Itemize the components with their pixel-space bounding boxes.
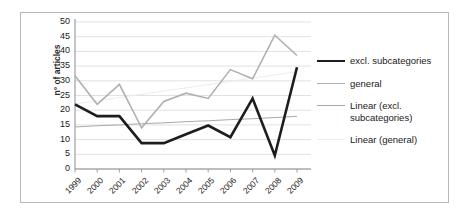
legend-swatch-icon (317, 60, 345, 62)
x-axis-tickmarks (75, 169, 297, 173)
legend-item-label: Linear (excl. subcategories) (350, 100, 447, 123)
legend-item[interactable]: Linear (excl. subcategories) (317, 100, 447, 123)
legend-swatch-icon (317, 139, 345, 140)
legend-item-label: Linear (general) (350, 134, 417, 146)
legend-item[interactable]: excl. subcategories (317, 55, 447, 67)
legend-swatch-icon (317, 105, 345, 106)
legend-item[interactable]: Linear (general) (317, 134, 447, 146)
legend-swatch-icon (317, 83, 345, 84)
series-line (75, 72, 297, 104)
series-line (75, 35, 297, 128)
legend-item-label: general (350, 78, 382, 90)
chart-legend: excl. subcategoriesgeneralLinear (excl. … (317, 55, 447, 157)
chart-screenshot: n° of articles 50454035302520151050 1999… (0, 0, 469, 217)
chart-frame: n° of articles 50454035302520151050 1999… (20, 12, 449, 203)
legend-item-label: excl. subcategories (350, 55, 431, 67)
legend-item[interactable]: general (317, 78, 447, 90)
